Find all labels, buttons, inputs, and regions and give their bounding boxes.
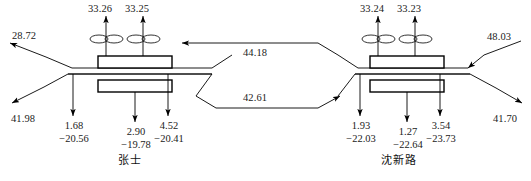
left-upper-out-flow: 28.72 — [12, 30, 36, 42]
left-ground-flow-1-upper: 1.68 — [50, 120, 98, 133]
right-lower-out-flow: 41.70 — [493, 113, 517, 125]
left-fan-symbol-1 — [90, 35, 123, 43]
right-ground-flow-3: 3.54 −23.73 — [417, 120, 465, 145]
right-ground-flow-1: 1.93 −22.03 — [337, 120, 385, 145]
mainline-eastbound-line — [196, 96, 340, 108]
left-ramp-flow-2: 33.25 — [125, 3, 149, 15]
traffic-flow-diagram: 33.26 33.25 33.24 33.23 28.72 41.98 48.0… — [0, 0, 531, 181]
right-upper-ramp-stems — [378, 16, 415, 56]
left-ground-flow-1: 1.68 −20.56 — [50, 120, 98, 145]
left-upper-ramp-stems — [106, 16, 143, 56]
left-ground-flow-1-lower: −20.56 — [50, 133, 98, 146]
station-name-right: 沈新路 — [381, 155, 418, 167]
right-lower-toll-canopy — [370, 80, 444, 92]
right-fan-symbol-1 — [362, 35, 395, 43]
right-ground-flow-1-lower: −22.03 — [337, 133, 385, 146]
right-ground-flow-3-lower: −23.73 — [417, 133, 465, 146]
right-fan-symbol-2 — [399, 35, 432, 43]
mainline-westbound-flow: 44.18 — [243, 47, 267, 59]
right-upper-toll-canopy — [370, 56, 444, 68]
right-upper-in-flow: 48.03 — [487, 31, 511, 43]
left-ground-flow-3-upper: 4.52 — [145, 120, 193, 133]
station-name-left: 张士 — [118, 155, 142, 167]
left-ground-flow-3: 4.52 −20.41 — [145, 120, 193, 145]
left-lower-out-flow: 41.98 — [11, 113, 35, 125]
diagram-linework — [0, 0, 531, 181]
left-fan-symbol-2 — [127, 35, 160, 43]
right-ground-flow-3-upper: 3.54 — [417, 120, 465, 133]
left-ground-flow-3-lower: −20.41 — [145, 133, 193, 146]
left-ramp-flow-1: 33.26 — [88, 3, 112, 15]
mainline-eastbound-flow: 42.61 — [243, 92, 267, 104]
left-upper-toll-canopy — [98, 56, 172, 68]
left-lower-toll-canopy — [98, 80, 172, 92]
right-ramp-flow-2: 33.23 — [397, 3, 421, 15]
right-ground-flow-1-upper: 1.93 — [337, 120, 385, 133]
right-ramp-flow-1: 33.24 — [360, 3, 384, 15]
